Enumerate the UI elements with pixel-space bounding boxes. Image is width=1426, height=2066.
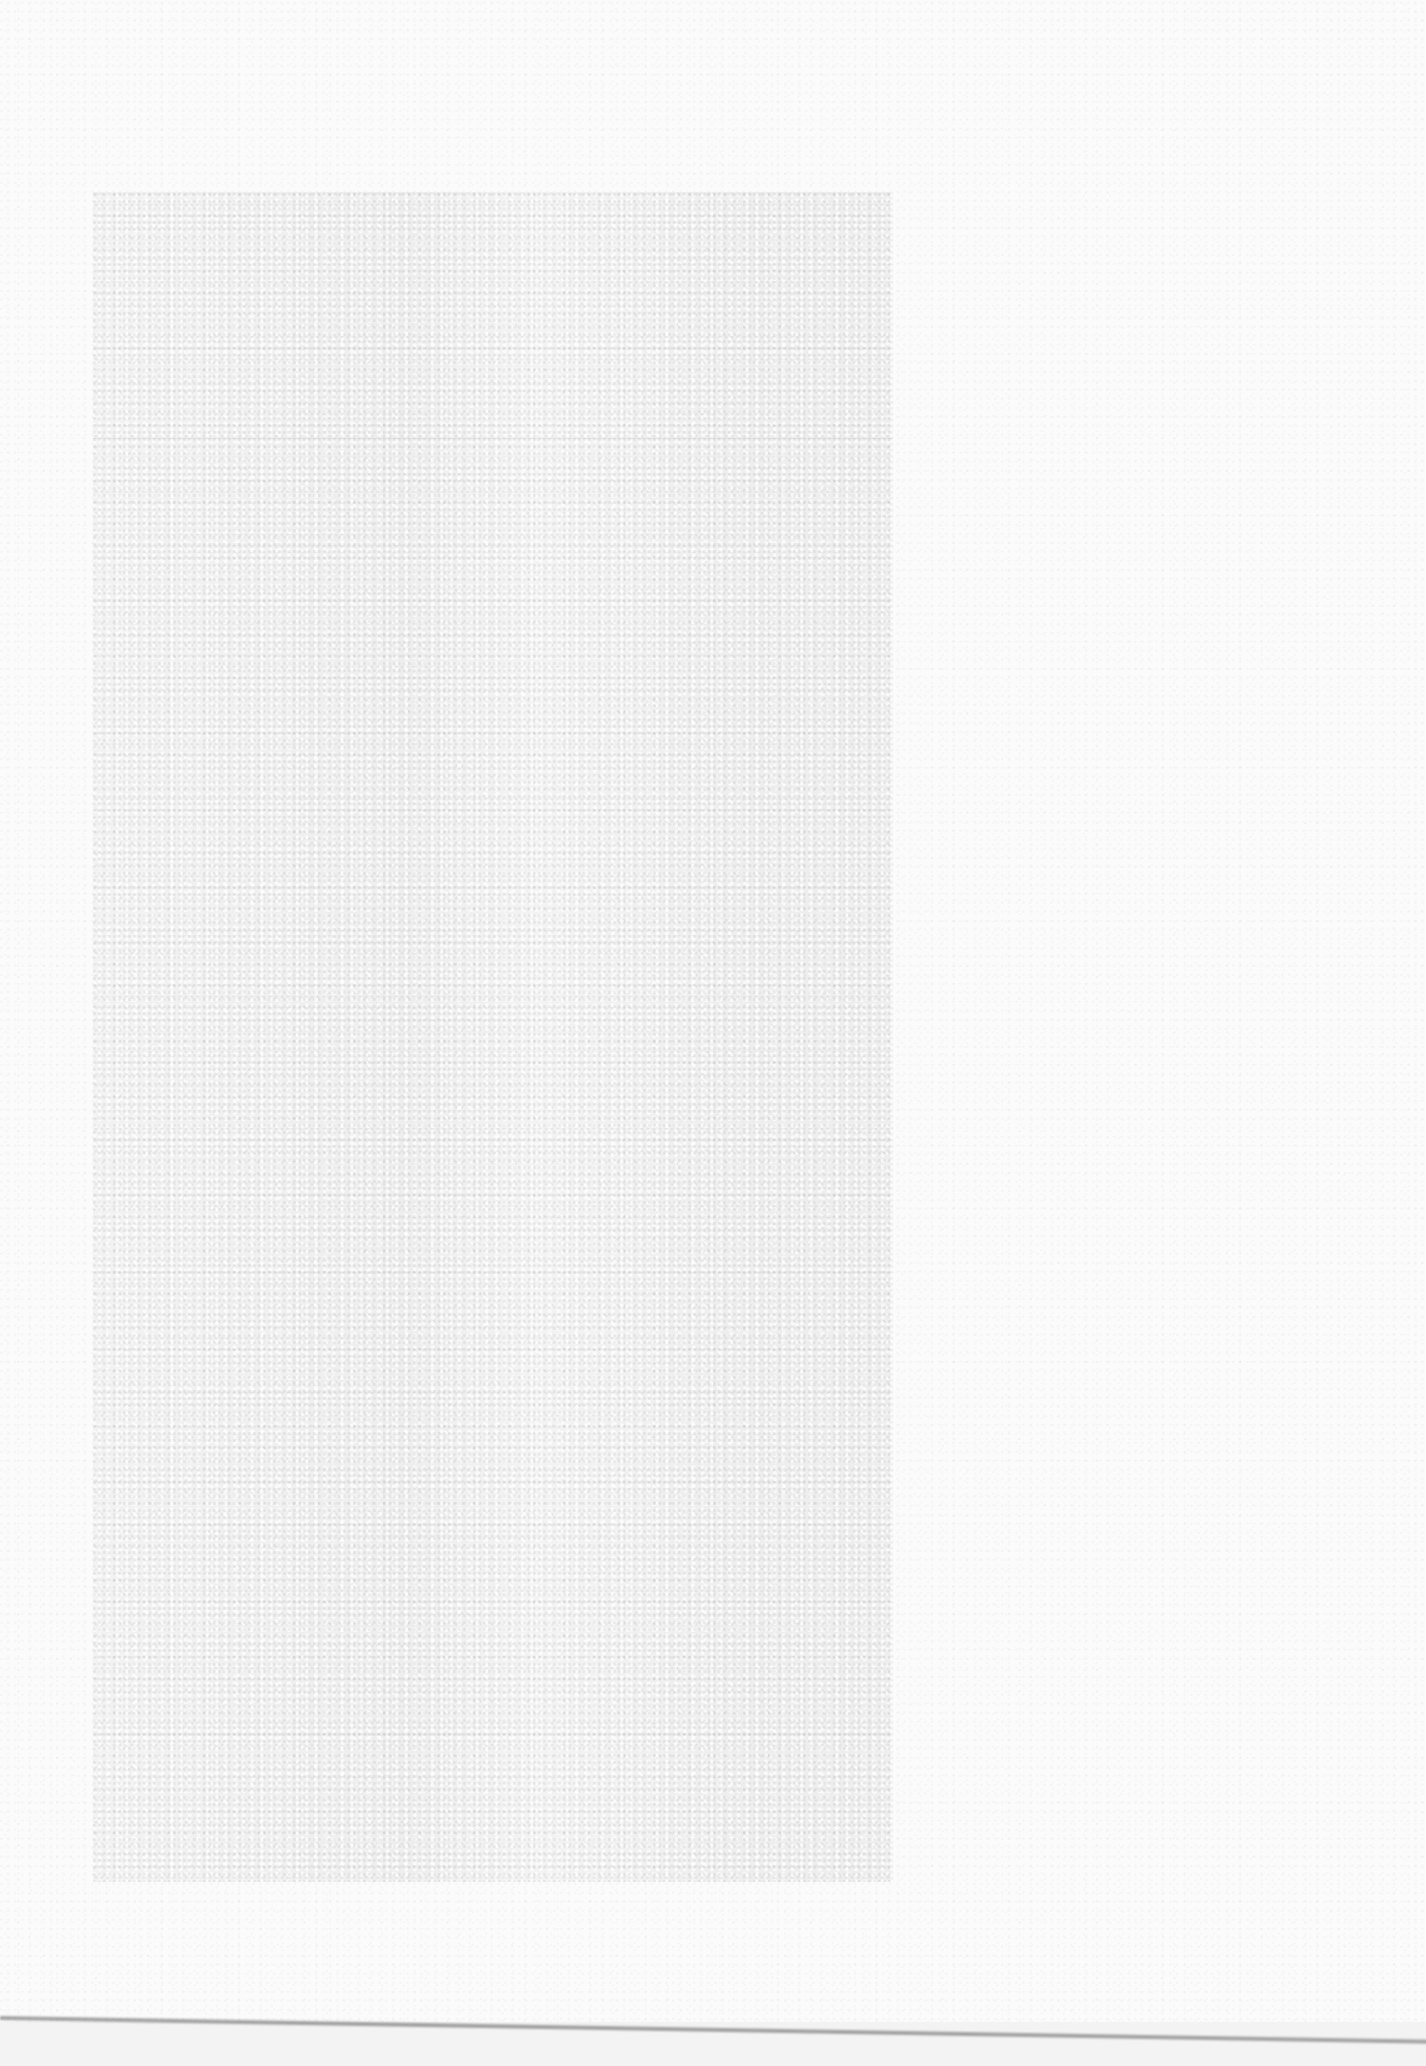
- faint-horizontal-rule: [93, 438, 893, 439]
- shaded-panel: [93, 192, 893, 1882]
